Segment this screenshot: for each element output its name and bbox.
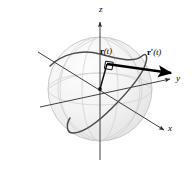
vector-diagram <box>0 0 192 173</box>
tangent-vector-label: r′(t) <box>147 48 161 57</box>
axis-label-y: y <box>176 74 180 83</box>
axis-label-z: z <box>99 5 103 14</box>
tangent-vector-label-arg: (t) <box>153 47 161 57</box>
axis-label-x: x <box>168 124 172 133</box>
position-vector-label: r(t) <box>100 47 112 56</box>
position-vector-label-arg: (t) <box>104 46 112 56</box>
figure-container: z y x r(t) r′(t) <box>0 0 192 173</box>
